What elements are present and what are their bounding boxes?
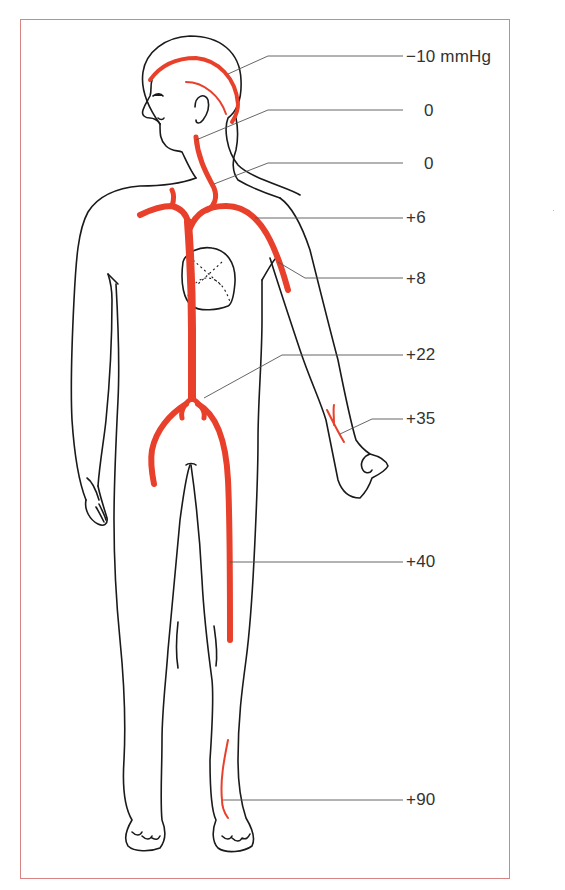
label-jugular-lower-pressure: 0 xyxy=(424,154,434,174)
veins xyxy=(140,58,344,818)
label-vena-cava-pressure: +22 xyxy=(406,345,435,365)
leader-upper-arm xyxy=(278,262,403,278)
label-subclavian-pressure: +6 xyxy=(406,208,426,228)
eye xyxy=(153,94,163,96)
ear-outline xyxy=(195,96,209,123)
right-femoral xyxy=(198,404,230,640)
label-wrist-pressure: +35 xyxy=(406,409,435,429)
label-scalp-pressure: −10 mmHg xyxy=(406,47,491,67)
face-outline xyxy=(143,80,160,124)
ankle-vein xyxy=(221,740,228,818)
vena-cava xyxy=(188,222,192,398)
label-ankle-pressure: +90 xyxy=(406,790,435,810)
right-foot-toes xyxy=(222,834,250,841)
left-foot-toes xyxy=(132,832,160,839)
label-femoral-pressure: +40 xyxy=(406,552,435,572)
body-outline xyxy=(71,36,388,852)
left-subclavian xyxy=(140,206,188,222)
leader-scalp xyxy=(228,56,403,74)
label-upper-arm-pressure: +8 xyxy=(406,269,426,289)
leader-wrist xyxy=(340,419,403,434)
leader-lines xyxy=(196,56,403,800)
head-outline xyxy=(142,36,300,195)
jugular-vein xyxy=(196,137,216,210)
label-jugular-upper-pressure: 0 xyxy=(424,101,434,121)
leader-jugular-lower xyxy=(214,163,403,184)
body-diagram xyxy=(0,0,565,890)
